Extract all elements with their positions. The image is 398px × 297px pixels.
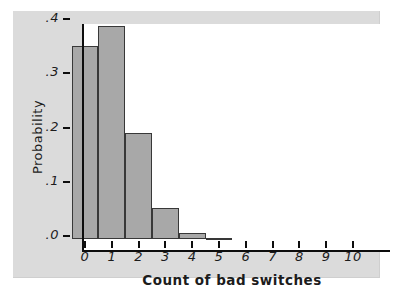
x-tick-label-8: 8 [286, 249, 312, 264]
x-tick-label-2: 2 [126, 249, 152, 264]
y-tick-.0 [63, 235, 70, 237]
y-tick-.1 [63, 181, 70, 183]
x-tick-label-0: 0 [72, 249, 98, 264]
x-tick-label-7: 7 [260, 249, 286, 264]
x-tick-label-4: 4 [179, 249, 205, 264]
y-tick-label-.3: .3 [29, 64, 59, 80]
x-tick-0 [84, 241, 86, 248]
x-tick-label-9: 9 [313, 249, 339, 264]
x-tick-label-5: 5 [206, 249, 232, 264]
y-tick-.2 [63, 127, 70, 129]
x-tick-label-6: 6 [233, 249, 259, 264]
y-tick-label-.0: .0 [29, 227, 59, 243]
bar-count-3 [152, 208, 179, 239]
bar-count-2 [125, 133, 152, 239]
x-tick-1 [111, 241, 113, 248]
y-tick-label-.1: .1 [29, 173, 59, 189]
x-axis-title: Count of bad switches [142, 272, 321, 288]
bar-count-0 [72, 46, 99, 239]
y-axis-title: Probability [30, 100, 45, 174]
y-tick-.3 [63, 72, 70, 74]
y-tick-.4 [63, 18, 70, 20]
chart-panel: .0.1.2.3.4 012345678910 Probability Coun… [13, 11, 380, 278]
bar-count-1 [98, 26, 125, 239]
x-tick-5 [218, 241, 220, 248]
x-tick-4 [191, 241, 193, 248]
y-tick-label-.4: .4 [29, 10, 59, 26]
x-tick-7 [272, 241, 274, 248]
x-tick-10 [352, 241, 354, 248]
x-tick-label-3: 3 [152, 249, 178, 264]
bar-count-4 [179, 233, 206, 239]
x-tick-label-1: 1 [99, 249, 125, 264]
bar-count-5 [206, 238, 233, 240]
x-tick-2 [138, 241, 140, 248]
x-tick-6 [245, 241, 247, 248]
y-axis [82, 24, 84, 252]
x-tick-label-10: 10 [340, 249, 366, 264]
x-tick-9 [325, 241, 327, 248]
x-tick-3 [164, 241, 166, 248]
figure-page: .0.1.2.3.4 012345678910 Probability Coun… [0, 0, 398, 297]
x-tick-8 [298, 241, 300, 248]
